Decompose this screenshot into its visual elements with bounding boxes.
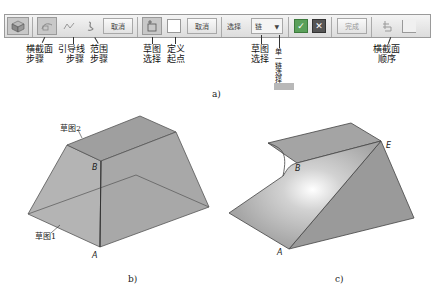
point-e-label: E: [386, 141, 391, 150]
point-b-label-c: B: [295, 164, 301, 173]
caption-c: c): [335, 274, 344, 284]
point-a-label-c: A: [277, 248, 282, 257]
figure-c: [0, 0, 433, 293]
